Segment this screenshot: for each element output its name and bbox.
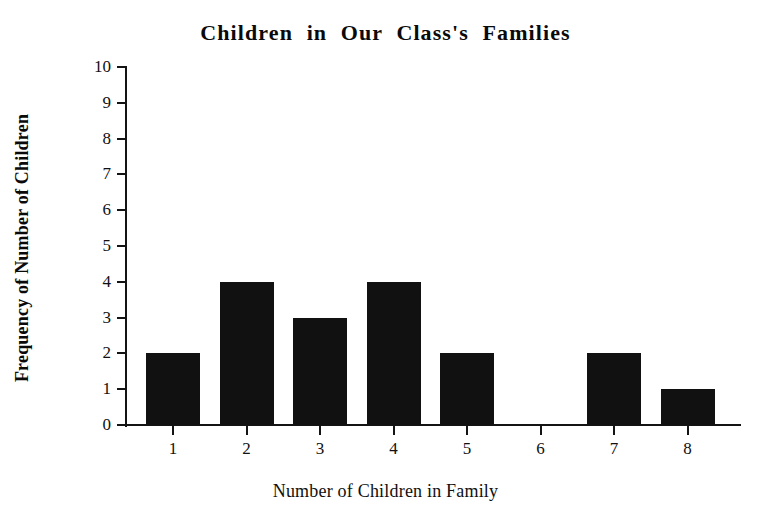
y-tick-label-text: 4 xyxy=(83,273,111,290)
x-tick-label: 8 xyxy=(668,440,708,458)
y-tick-label: 0 xyxy=(79,416,111,433)
y-tick-mark xyxy=(117,245,125,247)
y-tick-label: 10 xyxy=(79,58,111,75)
x-tick-mark xyxy=(613,426,615,435)
x-tick-label: 2 xyxy=(227,440,267,458)
y-tick-label: 4 xyxy=(79,273,111,290)
y-tick-mark xyxy=(117,173,125,175)
y-tick-label-text: 3 xyxy=(83,309,111,326)
x-axis-title: Number of Children in Family xyxy=(0,481,771,502)
y-tick-label-text: 2 xyxy=(83,344,111,361)
x-tick-label: 6 xyxy=(521,440,561,458)
chart-title: Children in Our Class's Families xyxy=(0,20,771,46)
bar xyxy=(146,353,200,425)
y-tick-label: 1 xyxy=(79,380,111,397)
y-axis-title: Frequency of Number of Children xyxy=(12,78,33,418)
y-tick-mark xyxy=(117,317,125,319)
x-tick-label: 4 xyxy=(374,440,414,458)
bar xyxy=(661,389,715,425)
y-tick-mark xyxy=(117,281,125,283)
y-tick-label-text: 10 xyxy=(83,58,111,75)
bar xyxy=(587,353,641,425)
x-tick-mark xyxy=(172,426,174,435)
x-tick-label: 3 xyxy=(300,440,340,458)
y-tick-label: 3 xyxy=(79,309,111,326)
x-tick-mark xyxy=(319,426,321,435)
y-tick-mark xyxy=(117,138,125,140)
x-tick-mark xyxy=(687,426,689,435)
x-tick-label: 7 xyxy=(594,440,634,458)
y-tick-mark xyxy=(117,352,125,354)
y-tick-mark xyxy=(117,424,125,426)
x-tick-mark xyxy=(540,426,542,435)
y-tick-label-text: 6 xyxy=(83,201,111,218)
bar xyxy=(440,353,494,425)
y-tick-label: 6 xyxy=(79,201,111,218)
bar-chart: Children in Our Class's Families 1098765… xyxy=(0,0,771,516)
y-tick-label-text: 7 xyxy=(83,165,111,182)
x-tick-mark xyxy=(246,426,248,435)
y-tick-mark xyxy=(117,102,125,104)
y-tick-label-text: 9 xyxy=(83,94,111,111)
y-tick-label: 2 xyxy=(79,344,111,361)
y-tick-label-text: 1 xyxy=(83,380,111,397)
plot-area xyxy=(125,67,740,425)
y-tick-label: 8 xyxy=(79,130,111,147)
x-tick-mark xyxy=(466,426,468,435)
y-tick-label-text: 8 xyxy=(83,130,111,147)
x-tick-label: 5 xyxy=(447,440,487,458)
y-tick-label: 7 xyxy=(79,165,111,182)
y-tick-label-text: 5 xyxy=(83,237,111,254)
y-tick-label: 9 xyxy=(79,94,111,111)
y-tick-mark xyxy=(117,388,125,390)
y-tick-mark xyxy=(117,209,125,211)
y-tick-label-text: 0 xyxy=(83,416,111,433)
bar xyxy=(367,282,421,425)
x-tick-label: 1 xyxy=(153,440,193,458)
y-tick-label: 5 xyxy=(79,237,111,254)
x-tick-mark xyxy=(393,426,395,435)
y-tick-mark xyxy=(117,66,125,68)
bar xyxy=(293,318,347,425)
bar xyxy=(220,282,274,425)
